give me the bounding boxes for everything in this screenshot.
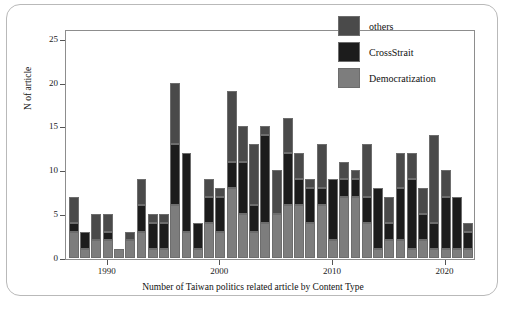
legend-label: others — [369, 21, 393, 32]
bar-segment-democratization — [463, 249, 473, 258]
x-axis: 1990200020102020 — [65, 260, 475, 282]
bar-segment-democratization — [452, 249, 462, 258]
y-axis-tick: 15 — [7, 127, 65, 128]
bar-segment-others — [305, 179, 315, 188]
bar-segment-crossstrait — [170, 144, 180, 205]
bar-segment-democratization — [283, 205, 293, 258]
bar-segment-democratization — [441, 249, 451, 258]
bar-segment-crossstrait — [227, 162, 237, 188]
x-axis-tick-mark — [107, 260, 108, 265]
bar-segment-others — [227, 91, 237, 161]
bar-segment-democratization — [260, 223, 270, 258]
y-axis-tick: 0 — [7, 259, 65, 260]
bar-segment-crossstrait — [249, 205, 259, 231]
bar — [170, 83, 180, 258]
bar-segment-democratization — [384, 240, 394, 258]
bar-segment-crossstrait — [317, 188, 327, 206]
y-axis-tick-label: 15 — [49, 120, 58, 132]
x-axis-tick-mark — [445, 260, 446, 265]
bar-segment-others — [204, 179, 214, 197]
bar — [182, 153, 192, 258]
bar-segment-democratization — [204, 223, 214, 258]
bar-segment-democratization — [317, 205, 327, 258]
bar — [215, 188, 225, 258]
x-axis-tick-mark — [219, 260, 220, 265]
bar — [362, 144, 372, 258]
x-axis-tick-label: 2010 — [318, 266, 346, 276]
bar — [69, 197, 79, 258]
bar — [305, 179, 315, 258]
bar-segment-others — [272, 170, 282, 214]
bar — [125, 232, 135, 258]
bar — [407, 153, 417, 258]
bar — [148, 214, 158, 258]
bar-segment-crossstrait — [463, 232, 473, 250]
bar-segment-others — [317, 144, 327, 188]
bar — [80, 232, 90, 258]
legend-swatch — [338, 16, 360, 36]
bar — [396, 153, 406, 258]
bar-segment-crossstrait — [294, 179, 304, 205]
legend-item: others — [338, 15, 483, 37]
bar-segment-democratization — [339, 197, 349, 258]
bar-segment-crossstrait — [238, 162, 248, 215]
bar-segment-democratization — [125, 240, 135, 258]
bar-segment-crossstrait — [407, 179, 417, 249]
bar — [317, 144, 327, 258]
bar-segment-others — [249, 144, 259, 205]
bar-segment-crossstrait — [384, 223, 394, 241]
bar-segment-crossstrait — [396, 188, 406, 241]
bar — [91, 214, 101, 258]
bar-segment-crossstrait — [69, 223, 79, 232]
legend-label: Democratization — [369, 73, 436, 84]
bar-segment-crossstrait — [204, 197, 214, 223]
bar — [429, 135, 439, 258]
bar-segment-crossstrait — [418, 214, 428, 240]
x-axis-tick-label: 2020 — [431, 266, 459, 276]
bar-segment-democratization — [114, 249, 124, 258]
bar-segment-others — [215, 188, 225, 197]
y-axis-tick: 20 — [7, 84, 65, 85]
bar — [441, 170, 451, 258]
y-axis-tick: 10 — [7, 171, 65, 172]
legend-label: CrossStrait — [369, 47, 413, 58]
x-axis-label: Number of Taiwan politics related articl… — [7, 282, 499, 292]
bar — [249, 144, 259, 258]
bar-segment-others — [407, 153, 417, 179]
x-axis-tick-label: 2000 — [205, 266, 233, 276]
bar-segment-others — [283, 118, 293, 153]
bar-segment-crossstrait — [305, 188, 315, 223]
bar-segment-crossstrait — [182, 153, 192, 232]
bar-segment-crossstrait — [283, 153, 293, 206]
bar — [204, 179, 214, 258]
bar — [452, 197, 462, 258]
bar-segment-others — [463, 223, 473, 232]
bar-segment-democratization — [305, 223, 315, 258]
bar-segment-crossstrait — [328, 179, 338, 240]
bar-segment-crossstrait — [159, 223, 169, 249]
bar — [463, 223, 473, 258]
bar-segment-democratization — [80, 249, 90, 258]
bar-segment-crossstrait — [339, 179, 349, 197]
bar-segment-democratization — [227, 188, 237, 258]
y-axis-tick: 25 — [7, 40, 65, 41]
y-axis-tick-label: 5 — [54, 208, 59, 220]
bar-segment-others — [148, 214, 158, 223]
bar-segment-crossstrait — [351, 179, 361, 197]
bar-segment-others — [69, 197, 79, 223]
bar — [227, 91, 237, 258]
bar-segment-democratization — [351, 197, 361, 258]
bar-segment-crossstrait — [137, 205, 147, 231]
bar-segment-crossstrait — [215, 197, 225, 232]
bar-segment-others — [159, 214, 169, 223]
bar — [114, 249, 124, 258]
bar-segment-crossstrait — [103, 232, 113, 241]
bar — [272, 170, 282, 258]
bar-segment-crossstrait — [362, 197, 372, 223]
bar-segment-democratization — [373, 249, 383, 258]
bar — [351, 170, 361, 258]
bar-segment-others — [260, 126, 270, 135]
bar-segment-others — [294, 153, 304, 179]
bar-segment-crossstrait — [452, 197, 462, 250]
bar-segment-democratization — [148, 249, 158, 258]
